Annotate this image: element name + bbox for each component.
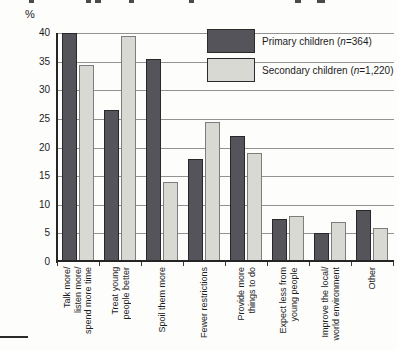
ytick-5: 5: [20, 227, 50, 239]
cropped-caption-line: [0, 336, 28, 338]
bar-primary-1: [62, 33, 77, 262]
bar-secondary-2: [121, 36, 136, 262]
y-axis-line: [56, 33, 58, 263]
x-axis-tick-6: [309, 262, 310, 266]
cropped-title-fragment: [295, 0, 301, 3]
cropped-title-fragment: [129, 0, 134, 3]
ytick-20: 20: [20, 142, 50, 154]
bar-primary-2: [104, 110, 119, 262]
bar-primary-7: [314, 233, 329, 262]
bar-chart-figure: % 4035302520151050 Talk more/ listen mor…: [0, 0, 397, 350]
cropped-title-fragment: [317, 0, 325, 3]
bar-secondary-8: [373, 228, 388, 262]
category-label-5: Provide more things to do: [236, 267, 257, 321]
category-group-2: [99, 33, 141, 262]
x-axis-category-labels: Talk more/ listen more/ spend more timeT…: [57, 267, 393, 350]
xlabel-cell-4: Fewer restrictions: [183, 267, 225, 350]
legend-swatch-secondary: [207, 58, 255, 82]
bar-primary-4: [188, 159, 203, 262]
cropped-title-fragment: [189, 0, 194, 3]
ytick-15: 15: [20, 170, 50, 182]
bar-secondary-7: [331, 222, 346, 262]
xlabel-cell-5: Provide more things to do: [225, 267, 267, 350]
category-group-1: [57, 33, 99, 262]
y-axis-unit-label: %: [25, 8, 35, 20]
cropped-title-fragment: [86, 0, 91, 3]
ytick-35: 35: [20, 56, 50, 68]
category-label-2: Treat young people better: [110, 267, 131, 320]
category-label-8: Other: [367, 267, 378, 290]
cropped-title-fragment: [29, 0, 34, 3]
ytick-0: 0: [20, 256, 50, 268]
category-label-1: Talk more/ listen more/ spend more time: [62, 267, 94, 334]
bar-primary-3: [146, 59, 161, 262]
legend-swatch-primary: [207, 29, 255, 53]
legend-label-primary: Primary children (n=364): [262, 36, 372, 47]
x-axis-tick-0: [57, 262, 58, 266]
x-axis-tick-8: [393, 262, 394, 266]
bar-secondary-5: [247, 153, 262, 262]
x-axis-tick-1: [99, 262, 100, 266]
xlabel-cell-8: Other: [351, 267, 393, 350]
legend: Primary children (n=364) Secondary child…: [207, 29, 393, 87]
x-axis-tick-3: [183, 262, 184, 266]
xlabel-cell-3: Spoil them more: [141, 267, 183, 350]
legend-item-secondary: Secondary children (n=1,220): [207, 58, 393, 82]
bar-secondary-6: [289, 216, 304, 262]
x-axis-tick-2: [141, 262, 142, 266]
category-label-7: Improve the local/ world environment: [320, 267, 341, 341]
xlabel-cell-7: Improve the local/ world environment: [309, 267, 351, 350]
ytick-10: 10: [20, 199, 50, 211]
bar-primary-8: [356, 210, 371, 262]
xlabel-cell-6: Expect less from young people: [267, 267, 309, 350]
category-label-4: Fewer restrictions: [199, 267, 210, 338]
x-axis-tick-4: [225, 262, 226, 266]
legend-item-primary: Primary children (n=364): [207, 29, 393, 53]
xlabel-cell-1: Talk more/ listen more/ spend more time: [57, 267, 99, 350]
bar-primary-5: [230, 136, 245, 262]
bar-secondary-3: [163, 182, 178, 262]
ytick-40: 40: [20, 27, 50, 39]
legend-label-secondary: Secondary children (n=1,220): [262, 65, 393, 76]
xlabel-cell-2: Treat young people better: [99, 267, 141, 350]
x-axis-tick-5: [267, 262, 268, 266]
x-axis-tick-7: [351, 262, 352, 266]
category-group-3: [141, 33, 183, 262]
bar-secondary-4: [205, 122, 220, 262]
bar-primary-6: [272, 219, 287, 262]
ytick-30: 30: [20, 84, 50, 96]
bar-secondary-1: [79, 65, 94, 263]
cropped-title-fragment: [95, 0, 101, 3]
category-label-6: Expect less from young people: [278, 267, 299, 334]
category-label-3: Spoil them more: [157, 267, 168, 333]
ytick-25: 25: [20, 113, 50, 125]
